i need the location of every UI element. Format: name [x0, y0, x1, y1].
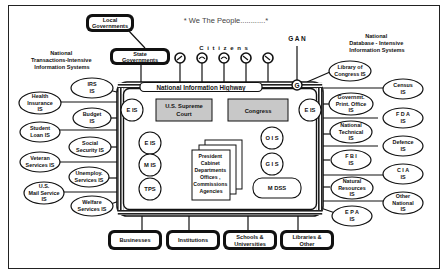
- svg-text:Businesses: Businesses: [119, 237, 150, 243]
- ois-node: O I S: [261, 127, 283, 149]
- tps-node: TPS: [139, 178, 161, 200]
- svg-text:TPS: TPS: [144, 186, 155, 192]
- svg-text:G I S: G I S: [265, 161, 278, 167]
- svg-text:Congress: Congress: [245, 108, 272, 114]
- student-loan-is: StudentLoan IS: [30, 125, 50, 138]
- highway-label: National Information Highway: [157, 84, 246, 92]
- gan-label: G A N: [288, 35, 306, 42]
- bottom-box-businesses: Businesses: [108, 230, 162, 250]
- citizens-label: C i t i z e n s: [199, 45, 249, 51]
- executive-branch-stack: President Cabinet Departments Offices , …: [192, 140, 242, 200]
- page-title: * We The People............*: [184, 16, 268, 25]
- supreme-court-box: U.S. SupremeCourt: [156, 99, 212, 121]
- eis-top-left: E IS: [121, 99, 143, 121]
- bottom-box-institutions: Institutions: [166, 230, 220, 250]
- mis-node: M IS: [139, 154, 161, 176]
- unemploy-services-is: Unemploy.Services IS: [75, 170, 104, 183]
- library-of-congress-is: Library ofCongress IS: [334, 64, 366, 77]
- svg-text:M DSS: M DSS: [268, 185, 286, 191]
- svg-text:O I S: O I S: [265, 135, 278, 141]
- svg-text:M IS: M IS: [144, 162, 156, 168]
- mdss-node: M DSS: [253, 178, 301, 198]
- gan-node: G: [292, 80, 302, 90]
- eis-mid: E IS: [139, 132, 161, 154]
- svg-text:E IS: E IS: [127, 107, 138, 113]
- citizen-icons: [175, 53, 273, 63]
- left-group-title: National Transactions-Intensive Informat…: [31, 50, 93, 70]
- svg-text:Schools &Universities: Schools &Universities: [234, 234, 266, 247]
- national-information-highway-diagram: National Information Highway G U.S. Supr…: [0, 0, 444, 274]
- gis-node: G I S: [261, 153, 283, 175]
- bottom-box-schools: Schools &Universities: [223, 230, 277, 250]
- state-governments-box: StateGovernments: [110, 48, 170, 65]
- right-group-title: National Database - Intensive Informatio…: [349, 33, 405, 53]
- local-governments-box: LocalGovernments: [86, 14, 134, 32]
- g-node-label: G: [294, 82, 299, 89]
- svg-text:E IS: E IS: [305, 107, 316, 113]
- eis-top-right: E IS: [299, 99, 321, 121]
- svg-text:Institutions: Institutions: [178, 237, 208, 243]
- congress-box: Congress: [228, 99, 288, 121]
- bottom-box-libraries: Libraries &Other: [280, 230, 334, 250]
- svg-text:E IS: E IS: [145, 140, 156, 146]
